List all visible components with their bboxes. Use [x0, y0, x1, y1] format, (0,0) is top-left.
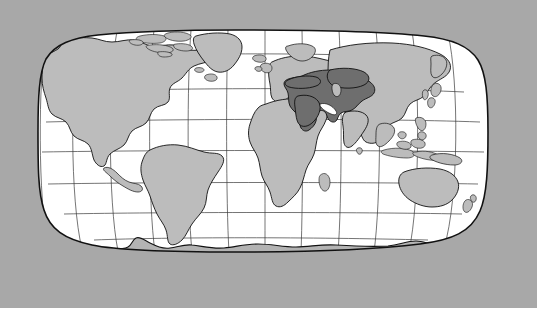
- world-map-canvas: [0, 0, 537, 312]
- world-map-figure: [0, 0, 537, 312]
- landmass-antarctica: [20, 237, 520, 300]
- landmass-iceland: [253, 55, 267, 62]
- caspian-sea: [332, 83, 341, 96]
- landmass-korea: [422, 90, 428, 100]
- figure-bottom-strip: [0, 308, 537, 312]
